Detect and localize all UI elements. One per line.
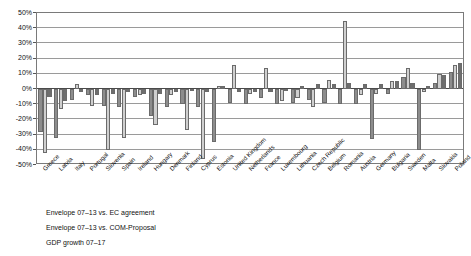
bar	[196, 89, 200, 107]
bar-group	[416, 13, 432, 163]
bar	[437, 74, 441, 89]
bar	[332, 84, 336, 89]
y-tick-label: -30%	[0, 130, 32, 137]
bar	[248, 89, 252, 94]
legend-item: Envelope 07–13 vs. COM-Proposal	[46, 220, 346, 235]
bar	[201, 89, 205, 159]
legend-label: Envelope 07–13 vs. EC agreement	[46, 209, 155, 217]
bar-group	[195, 13, 211, 163]
bar	[79, 89, 83, 92]
y-tick-label: 40%	[0, 24, 32, 31]
bar	[338, 89, 342, 104]
bar	[417, 89, 421, 150]
chart-root: 50%40%30%20%10%0%-10%-20%-30%-40%-50% Gr…	[0, 0, 471, 256]
bar	[458, 63, 462, 89]
bar	[90, 89, 94, 106]
bar-group	[100, 13, 116, 163]
bar	[212, 89, 216, 142]
bar	[343, 21, 347, 89]
bar	[264, 68, 268, 89]
bar-group	[384, 13, 400, 163]
bar	[158, 89, 162, 94]
y-tick-label: 0%	[0, 85, 32, 92]
bar-group	[37, 13, 53, 163]
bar-group	[400, 13, 416, 163]
legend-item: Envelope 07–13 vs. EC agreement	[46, 205, 346, 220]
bar	[165, 89, 169, 107]
chart-legend: Envelope 07–13 vs. EC agreementEnvelope …	[46, 205, 346, 250]
bar	[322, 89, 326, 103]
bar	[259, 89, 263, 98]
bar	[410, 83, 414, 89]
bar	[153, 89, 157, 125]
bar	[59, 89, 63, 109]
bar	[54, 89, 58, 138]
bar	[442, 75, 446, 89]
bar	[347, 83, 351, 89]
bar-group	[163, 13, 179, 163]
bar-groups	[37, 13, 463, 163]
y-tick-label: 20%	[0, 54, 32, 61]
bar	[228, 89, 232, 103]
bar-group	[84, 13, 100, 163]
bar	[390, 81, 394, 89]
bar	[126, 89, 130, 92]
bar-group	[447, 13, 463, 163]
legend-item: GDP growth 07–17	[46, 235, 346, 250]
bar	[363, 84, 367, 89]
bar-group	[211, 13, 227, 163]
bar	[300, 86, 304, 89]
bar	[237, 89, 241, 92]
bar	[190, 89, 194, 91]
bar	[374, 89, 378, 94]
bar	[70, 89, 74, 100]
bar	[38, 89, 42, 132]
y-tick-label: -10%	[0, 100, 32, 107]
y-tick-label: -50%	[0, 161, 32, 168]
bar-group	[116, 13, 132, 163]
bar	[117, 89, 121, 107]
bar	[43, 89, 47, 153]
bar	[217, 86, 221, 89]
bar	[232, 65, 236, 89]
bar	[63, 89, 67, 101]
bar	[47, 89, 51, 97]
bar	[253, 89, 257, 92]
bar	[370, 89, 374, 139]
bar	[185, 89, 189, 130]
bar	[406, 68, 410, 89]
bar	[284, 89, 288, 91]
bar	[426, 86, 430, 89]
bar-group	[368, 13, 384, 163]
bar	[149, 89, 153, 116]
bar	[386, 89, 390, 94]
bar-group	[274, 13, 290, 163]
y-tick-label: -40%	[0, 145, 32, 152]
bar	[95, 89, 99, 95]
bar	[453, 65, 457, 89]
bar	[291, 89, 295, 103]
bar	[244, 89, 248, 104]
bar-group	[53, 13, 69, 163]
legend-label: Envelope 07–13 vs. COM-Proposal	[46, 224, 156, 232]
bar	[102, 89, 106, 106]
bar	[307, 89, 311, 100]
y-tick-label: 10%	[0, 69, 32, 76]
bar	[122, 89, 126, 138]
bar-group	[69, 13, 85, 163]
bar	[422, 89, 426, 92]
bar	[106, 89, 110, 150]
bar-group	[132, 13, 148, 163]
legend-label: GDP growth 07–17	[46, 239, 105, 247]
bar	[138, 89, 142, 95]
bar	[354, 89, 358, 104]
bar	[401, 77, 405, 89]
bar-group	[179, 13, 195, 163]
bar-group	[290, 13, 306, 163]
bar	[295, 89, 299, 98]
bar	[169, 89, 173, 95]
bar	[359, 89, 363, 95]
bar	[75, 84, 79, 89]
y-tick-label: -20%	[0, 115, 32, 122]
bar	[280, 89, 284, 101]
